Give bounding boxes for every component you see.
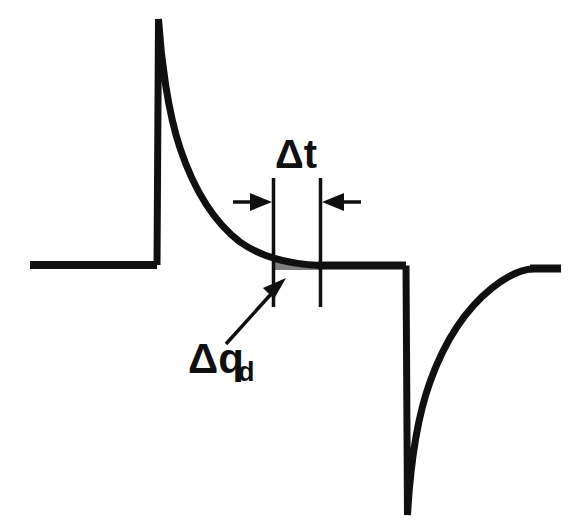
delta-t-right-arrow-head-icon: [322, 193, 344, 211]
transient-waveform-figure: Δt Δq d: [0, 0, 577, 522]
delta-q-label: Δq: [188, 335, 244, 382]
delta-t-left-arrow-head-icon: [250, 193, 272, 211]
delta-q-subscript-label: d: [238, 357, 255, 387]
negative-spike-curve: [406, 266, 534, 516]
waveform-diagram-canvas: Δt Δq d: [0, 0, 577, 522]
delta-t-label: Δt: [275, 132, 317, 176]
